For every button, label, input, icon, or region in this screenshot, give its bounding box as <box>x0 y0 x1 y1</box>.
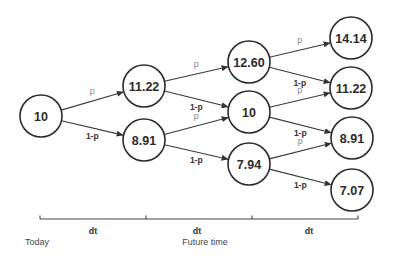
probability-down-label: 1-p <box>86 131 99 141</box>
today-label: Today <box>25 237 50 247</box>
node-value: 11.22 <box>336 82 367 96</box>
binomial-tree-diagram: p1-pp1-pp1-pp1-pp1-pp1-p 1011.228.9112.6… <box>0 0 393 265</box>
edges-layer: p1-pp1-pp1-pp1-pp1-pp1-p <box>61 35 331 190</box>
tree-node: 8.91 <box>331 117 373 159</box>
tree-node: 11.22 <box>123 65 165 107</box>
node-value: 10 <box>242 106 256 120</box>
interval-dt-label: dt <box>193 226 202 236</box>
interval-dt-label: dt <box>89 226 98 236</box>
interval-dt-label: dt <box>305 226 314 236</box>
probability-up-label: p <box>297 35 302 45</box>
node-value: 7.07 <box>340 184 364 198</box>
edge-arrow <box>269 93 330 107</box>
future-time-label: Future time <box>182 237 228 247</box>
timeline-axis: dtdtdtTodayFuture time <box>25 216 358 248</box>
probability-up-label: p <box>90 86 95 96</box>
tree-node: 12.60 <box>228 41 270 83</box>
tree-node: 7.94 <box>228 143 270 185</box>
tree-node: 7.07 <box>331 169 373 211</box>
node-value: 7.94 <box>237 158 261 172</box>
tree-node: 8.91 <box>123 119 165 161</box>
probability-down-label: 1-p <box>190 155 203 165</box>
node-value: 10 <box>34 110 48 124</box>
node-value: 14.14 <box>335 32 366 46</box>
node-value: 11.22 <box>129 80 160 94</box>
probability-down-label: 1-p <box>294 180 307 190</box>
probability-up-label: p <box>194 59 199 69</box>
probability-up-label: p <box>194 111 199 121</box>
tree-node: 11.22 <box>330 67 372 109</box>
node-value: 8.91 <box>340 132 364 146</box>
probability-up-label: p <box>298 136 303 146</box>
node-value: 8.91 <box>132 134 156 148</box>
probability-up-label: p <box>297 85 302 95</box>
tree-node: 14.14 <box>330 17 372 59</box>
node-value: 12.60 <box>233 56 264 70</box>
tree-node: 10 <box>20 95 62 137</box>
edge-arrow <box>269 43 330 57</box>
tree-node: 10 <box>228 91 270 133</box>
